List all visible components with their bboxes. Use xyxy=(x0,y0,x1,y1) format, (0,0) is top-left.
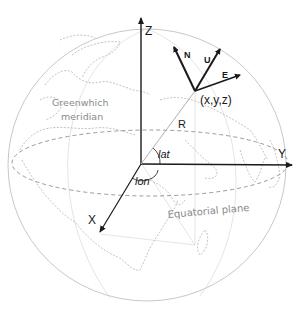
north-label: N xyxy=(184,50,191,60)
latitude-label: lat xyxy=(158,148,171,160)
y-axis xyxy=(141,164,292,165)
east-vector xyxy=(195,75,240,91)
coastline-europe xyxy=(45,71,150,95)
radius-label: R xyxy=(178,118,186,130)
continents xyxy=(20,35,280,270)
east-label: E xyxy=(222,70,228,80)
up-label: U xyxy=(204,55,211,65)
coastline-horn xyxy=(150,180,185,205)
meridian-arc xyxy=(68,29,147,298)
y-axis-label: Y xyxy=(278,147,286,161)
x-axis-label: X xyxy=(88,213,96,227)
axes xyxy=(100,18,292,232)
earth-coordinate-diagram: Z Y X N U E (x,y,z) R lat lon Greenwhich… xyxy=(0,0,302,312)
coastline-india xyxy=(240,150,265,182)
equatorial-plane xyxy=(12,130,288,196)
coastline-arabia xyxy=(185,140,217,178)
coastline-scandinavia xyxy=(72,42,120,78)
coastline-madagascar xyxy=(198,230,208,255)
point-label: (x,y,z) xyxy=(200,93,232,107)
z-axis-label: Z xyxy=(145,24,152,38)
meridian-label-2: meridian xyxy=(61,111,103,122)
coastline-greenland xyxy=(60,35,95,40)
longitude-label: lon xyxy=(135,175,150,187)
meridian-label: Greenwhich xyxy=(52,97,108,108)
projection-guide-2 xyxy=(100,234,195,245)
